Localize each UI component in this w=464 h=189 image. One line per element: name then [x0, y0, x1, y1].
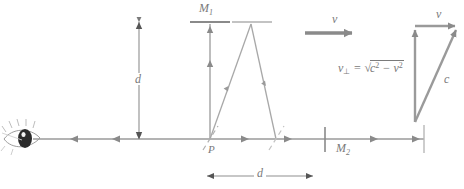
diagonal-light-path — [210, 24, 276, 139]
vertical-light-beam-to-M1 — [207, 24, 213, 139]
formula-lhs-subscript: ⊥ — [343, 67, 350, 76]
label-mirror-M2: M2 — [336, 142, 350, 157]
formula-equals: = — [353, 61, 361, 75]
label-mirror-M1: M1 — [199, 2, 213, 17]
label-distance-d-horizontal: d — [254, 167, 266, 179]
label-point-P: P — [208, 144, 215, 155]
secondary-splitter — [269, 126, 284, 150]
label-velocity-v: v — [332, 13, 337, 25]
observer-eye-icon — [1, 119, 40, 155]
formula-radicand-b-exponent: 2 — [399, 61, 403, 70]
velocity-vector-triangle — [415, 26, 456, 122]
formula-minus: − — [382, 61, 390, 75]
label-velocity-v-triangle: v — [436, 8, 441, 20]
physics-diagram-michelson-interferometer: M1 M2 P d d v v c v⊥ = √c2 − v2 — [0, 0, 464, 189]
label-distance-d-vertical: d — [133, 73, 143, 85]
formula-radicand-a-exponent: 2 — [375, 61, 379, 70]
label-speed-of-light-c: c — [444, 73, 449, 85]
formula-perpendicular-velocity: v⊥ = √c2 − v2 — [338, 62, 404, 76]
